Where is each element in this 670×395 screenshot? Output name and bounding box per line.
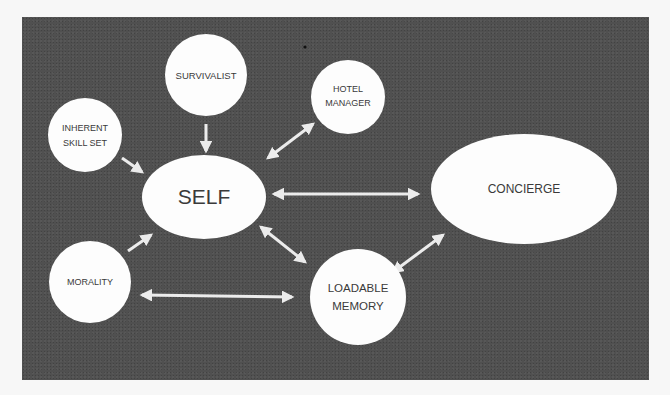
node-morality: MORALITY [49,241,131,323]
arrow-self-loadable-memory [261,227,305,262]
arrow-hotel-manager-self [268,124,313,158]
inherent-skill-set-label-line1: INHERENT [62,123,109,133]
inherent-skill-set-circle [48,98,122,172]
hotel-manager-label-line2: MANAGER [325,98,371,108]
node-survivalist: SURVIVALIST [165,34,247,116]
page: SURVIVALIST HOTEL MANAGER INHERENT SKILL… [0,0,670,395]
node-loadable-memory: LOADABLE MEMORY [310,249,406,345]
node-self: SELF [142,155,266,239]
node-concierge: CONCIERGE [431,134,617,244]
node-inherent-skill-set: INHERENT SKILL SET [48,98,122,172]
arrow-loadable-memory-concierge [393,235,443,272]
morality-label: MORALITY [67,277,113,287]
arrow-morality-loadable-memory [142,295,292,297]
loadable-memory-label-line1: LOADABLE [328,282,389,294]
arrow-morality-to-self [128,235,151,251]
concierge-label: CONCIERGE [488,182,561,196]
speck-mark [303,45,306,48]
inherent-skill-set-label-line2: SKILL SET [63,138,108,148]
diagram-canvas: SURVIVALIST HOTEL MANAGER INHERENT SKILL… [0,0,670,395]
hotel-manager-circle [311,60,385,134]
node-hotel-manager: HOTEL MANAGER [311,60,385,134]
hotel-manager-label-line1: HOTEL [333,84,363,94]
self-label: SELF [178,185,231,208]
arrow-inherent-to-self [122,158,142,172]
loadable-memory-label-line2: MEMORY [332,300,384,312]
survivalist-label: SURVIVALIST [176,70,237,81]
loadable-memory-circle [310,249,406,345]
